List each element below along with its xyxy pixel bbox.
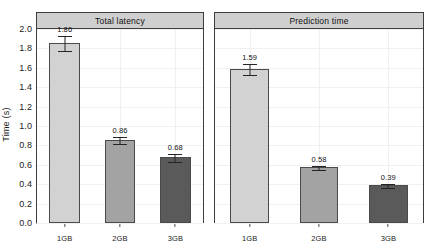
- x-axis-prediction-time: 1GB2GB3GB: [215, 224, 423, 249]
- bar-slot: 0.58: [285, 29, 354, 223]
- bar-value-label: 1.59: [242, 53, 257, 62]
- error-bar-cap-lower: [168, 162, 182, 163]
- bar[interactable]: 0.68: [160, 157, 191, 223]
- x-axis-tick-mark: [388, 224, 389, 227]
- y-axis-tick-label: 0.8: [19, 140, 32, 150]
- x-axis-tick-mark: [64, 224, 65, 227]
- x-axis-tick-group: 3GB: [381, 224, 396, 243]
- panel-total-latency: Total latency 1.860.860.68 1GB2GB3GB: [36, 12, 204, 223]
- error-bar-cap-lower: [58, 51, 72, 52]
- error-bar-cap-upper: [381, 184, 395, 185]
- x-axis-tick-group: 1GB: [57, 224, 72, 243]
- bar[interactable]: 0.58: [300, 167, 338, 223]
- x-axis-tick-label: 1GB: [242, 234, 257, 243]
- strip-label: Total latency: [95, 16, 145, 26]
- bar[interactable]: 1.59: [230, 69, 268, 223]
- y-axis-tick-label: 1.4: [19, 82, 32, 92]
- error-bar: [64, 36, 65, 51]
- y-axis-tick-label: 0.2: [19, 199, 32, 209]
- y-axis-tick-label: 1.2: [19, 102, 32, 112]
- plot-area-prediction-time: 1.590.580.39: [215, 29, 423, 223]
- bar-slot: 1.86: [37, 29, 92, 223]
- strip-label: Prediction time: [289, 16, 348, 26]
- x-axis-tick-group: 2GB: [311, 224, 326, 243]
- x-axis-tick-label: 2GB: [112, 234, 127, 243]
- x-axis-tick-label: 1GB: [57, 234, 72, 243]
- bar-value-label: 0.68: [168, 143, 183, 152]
- bar-value-label: 0.86: [112, 126, 127, 135]
- error-bar-cap-lower: [243, 75, 257, 76]
- x-axis-tick-group: 3GB: [168, 224, 183, 243]
- x-axis-tick-label: 3GB: [381, 234, 396, 243]
- bar[interactable]: 0.86: [105, 140, 136, 223]
- error-bar-cap-upper: [168, 154, 182, 155]
- y-axis-tick-label: 2.0: [19, 24, 32, 34]
- x-axis-tick-mark: [249, 224, 250, 227]
- error-bar-cap-lower: [312, 170, 326, 171]
- chart-figure: Time (s) 0.00.20.40.60.81.01.21.41.61.82…: [0, 0, 431, 249]
- x-axis-tick-label: 2GB: [311, 234, 326, 243]
- error-bar-cap-upper: [243, 64, 257, 65]
- strip-header-prediction-time: Prediction time: [215, 13, 423, 29]
- bar-slot: 0.86: [93, 29, 148, 223]
- x-axis-tick-mark: [319, 224, 320, 227]
- y-axis: 0.00.20.40.60.81.01.21.41.61.82.0: [8, 29, 36, 223]
- error-bar: [249, 64, 250, 75]
- bar-group: 1.860.860.68: [37, 29, 203, 223]
- bar[interactable]: 1.86: [49, 43, 80, 223]
- error-bar: [119, 137, 120, 144]
- bar-slot: 0.68: [148, 29, 203, 223]
- plot-area-total-latency: 1.860.860.68: [37, 29, 203, 223]
- y-axis-tick-label: 1.8: [19, 43, 32, 53]
- error-bar-cap-upper: [312, 166, 326, 167]
- bar-value-label: 0.39: [381, 173, 396, 182]
- x-axis-tick-group: 1GB: [242, 224, 257, 243]
- error-bar-cap-lower: [113, 144, 127, 145]
- bar-value-label: 1.86: [57, 25, 72, 34]
- x-axis-tick-mark: [120, 224, 121, 227]
- bar-group: 1.590.580.39: [215, 29, 423, 223]
- x-axis-tick-label: 3GB: [168, 234, 183, 243]
- y-axis-tick-label: 0.4: [19, 179, 32, 189]
- bar-slot: 0.39: [354, 29, 423, 223]
- error-bar: [175, 154, 176, 163]
- bar[interactable]: 0.39: [369, 185, 407, 223]
- error-bar-cap-upper: [58, 36, 72, 37]
- x-axis-tick-mark: [175, 224, 176, 227]
- bar-slot: 1.59: [215, 29, 284, 223]
- x-axis-total-latency: 1GB2GB3GB: [37, 224, 203, 249]
- y-axis-tick-label: 0.0: [19, 218, 32, 228]
- x-axis-tick-group: 2GB: [112, 224, 127, 243]
- y-axis-tick-label: 1.6: [19, 63, 32, 73]
- error-bar-cap-upper: [113, 137, 127, 138]
- y-axis-tick-label: 1.0: [19, 121, 32, 131]
- y-axis-tick-label: 0.6: [19, 160, 32, 170]
- bar-value-label: 0.58: [311, 155, 326, 164]
- panel-prediction-time: Prediction time 1.590.580.39 1GB2GB3GB: [214, 12, 424, 223]
- error-bar-cap-lower: [381, 188, 395, 189]
